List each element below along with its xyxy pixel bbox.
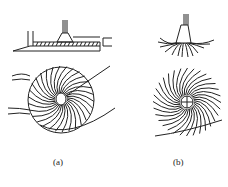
jet-line [191,40,214,44]
vane [187,78,211,95]
hatch-line [60,42,62,46]
jet-line [185,43,188,57]
hatch-line [36,42,38,46]
hatch-line [68,42,70,46]
hatch-line [92,42,94,46]
hatch-line [80,42,82,46]
hatch-line [84,42,86,46]
hatch-line [44,42,46,46]
vane [168,74,180,101]
panel-a-label: (a) [53,157,63,167]
panel-b-label: (b) [173,157,184,167]
vane [163,109,187,126]
hatch-line [88,42,90,46]
hatch-line [64,42,66,46]
vane [159,109,186,121]
top-view-a [8,66,115,133]
hatch-line [48,42,50,46]
diagram-canvas [0,0,228,187]
hatch-line [40,42,42,46]
vane [163,78,180,102]
side-view-a [13,20,112,51]
side-view-b [158,14,214,57]
hatch-line [56,42,58,46]
hatch-line [52,42,54,46]
hatch-line [72,42,74,46]
vane [188,83,215,95]
panel-b [153,14,222,136]
hatch-line [76,42,78,46]
jet-line [182,43,184,57]
vane [194,102,211,126]
hatch-line [96,42,98,46]
panel-a [8,20,115,133]
top-view-b [153,68,222,136]
